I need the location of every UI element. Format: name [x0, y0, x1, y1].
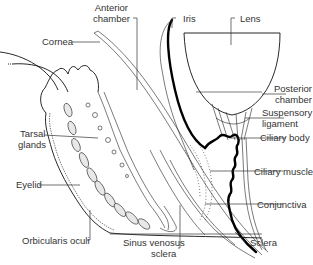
label-anterior-chamber-line1: Anterior	[95, 2, 128, 13]
ciliary-muscle-area	[185, 140, 212, 220]
tarsal-glands	[62, 102, 151, 231]
label-tarsal-glands-line2: glands	[18, 139, 46, 150]
label-sclera: Sclera	[250, 237, 278, 248]
label-cornea: Cornea	[42, 36, 74, 47]
label-suspensory-ligament-line2: ligament	[262, 118, 298, 129]
label-suspensory-ligament-line1: Suspensory	[262, 107, 312, 118]
label-posterior-chamber-line1: Posterior	[274, 83, 312, 94]
eyelid-structure	[41, 66, 262, 239]
label-posterior-chamber-line2: chamber	[275, 94, 312, 105]
cornea-structure	[94, 31, 268, 255]
eye-anatomy-diagram: Anterior chamber Iris Lens Cornea Poster…	[0, 0, 313, 265]
labels: Anterior chamber Iris Lens Cornea Poster…	[16, 2, 313, 259]
ciliary-body-structure	[205, 135, 266, 252]
label-tarsal-glands-line1: Tarsal	[20, 128, 45, 139]
label-sinus-venosus-line2: sclera	[151, 248, 177, 259]
lens-structure	[184, 33, 280, 115]
label-lens: Lens	[240, 13, 261, 24]
label-conjunctiva: Conjunctiva	[257, 199, 307, 210]
label-iris: Iris	[183, 13, 196, 24]
label-ciliary-body: Ciliary body	[260, 132, 310, 143]
label-orbicularis-oculi: Orbicularis oculi	[22, 235, 90, 246]
label-anterior-chamber-line2: chamber	[93, 13, 130, 24]
label-eyelid: Eyelid	[16, 179, 42, 190]
label-sinus-venosus-line1: Sinus venosus	[123, 237, 185, 248]
eyelashes	[0, 52, 68, 92]
label-ciliary-muscle: Ciliary muscle	[254, 166, 313, 177]
